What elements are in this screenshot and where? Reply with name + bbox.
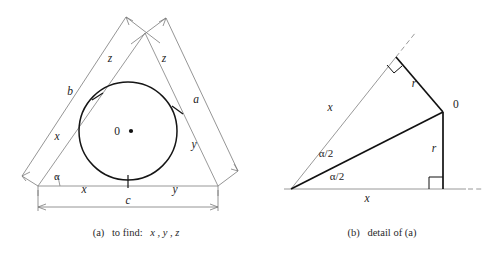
caption-b-marker: (b) <box>348 227 361 239</box>
dimension-b <box>22 17 126 186</box>
caption-a-vars: x , y , z <box>149 227 179 238</box>
label-half-angle-upper: α/2 <box>319 147 333 159</box>
right-angle-marker-lower <box>429 177 443 189</box>
figure-root: 0 <box>0 0 493 255</box>
incircle-center-dot <box>129 129 133 133</box>
segment-bisector <box>291 112 443 189</box>
label-tangent-y-right: y <box>190 138 197 151</box>
label-radius-upper: r <box>412 77 417 89</box>
captions: (a) to find: x , y , z (b) detail of (a) <box>93 227 417 239</box>
label-side-a: a <box>193 93 199 105</box>
label-side-b: b <box>67 85 73 97</box>
dimension-line-a <box>166 18 238 171</box>
label-tangent-z-left: z <box>107 52 113 64</box>
dimension-arrowhead-a-bottom <box>231 164 238 171</box>
panel-a-center-label: 0 <box>114 125 120 137</box>
geometry-figure: 0 <box>0 0 493 255</box>
caption-a-text: to find: <box>112 227 143 238</box>
label-base-x: x <box>363 192 370 204</box>
label-tangent-x-left: x <box>53 130 60 142</box>
label-radius-lower: r <box>432 142 437 154</box>
label-side-c: c <box>125 194 130 206</box>
segment-radius-upper <box>396 57 443 112</box>
ray-side-extension-dashed <box>396 32 416 57</box>
dimension-line-b <box>22 17 126 176</box>
label-tangent-y-base: y <box>171 183 178 196</box>
label-tangent-z-right: z <box>161 52 167 64</box>
label-half-angle-lower: α/2 <box>330 170 344 182</box>
caption-a-marker: (a) <box>93 227 105 239</box>
caption-panel-a: (a) to find: x , y , z <box>93 227 180 239</box>
panel-b-center-label: 0 <box>453 98 459 110</box>
dimension-a <box>166 18 238 186</box>
label-angle-alpha: α <box>54 170 60 182</box>
triangle-outline <box>38 33 218 186</box>
label-tangent-x-base: x <box>80 183 87 195</box>
caption-panel-b: (b) detail of (a) <box>348 227 417 239</box>
apex-dimension-leaders <box>126 17 166 44</box>
dimension-extension-b <box>22 176 38 186</box>
label-hypotenuse-x: x <box>326 101 333 113</box>
panel-a: 0 <box>22 17 238 211</box>
tangent-tick-marks <box>92 93 183 188</box>
panel-b: 0 x x r r α/2 α/2 <box>284 32 482 204</box>
dimension-leader-a-top <box>126 17 160 43</box>
dimension-extension-a <box>218 171 238 186</box>
caption-b-text: detail of (a) <box>367 227 416 239</box>
inscribed-circle <box>79 82 177 180</box>
